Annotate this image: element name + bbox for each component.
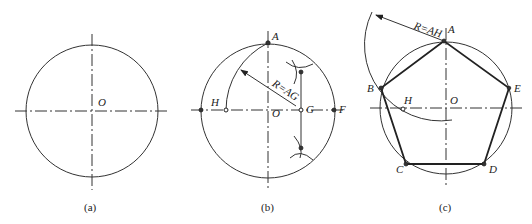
point-H-b (224, 108, 228, 112)
label-E-c: E (513, 82, 521, 94)
pentagon (381, 41, 509, 164)
caption-c: (c) (439, 201, 452, 214)
label-O-b: O (272, 107, 280, 119)
label-O-a: O (98, 96, 106, 108)
label-C-c: C (396, 163, 404, 175)
arc-AG (226, 43, 268, 110)
label-H-c: H (403, 94, 413, 106)
point-bisector-bottom (299, 146, 303, 150)
panel-b: A H O G F R=AG (b) (191, 30, 346, 214)
point-H-c (401, 107, 405, 111)
pentagon-construction-diagram: O (a) A H O G F R=AG (b) (0, 0, 532, 224)
label-B-c: B (367, 82, 374, 94)
point-G-b (299, 108, 303, 112)
label-A-b: A (271, 30, 279, 42)
point-left-b (199, 108, 203, 112)
label-A-c: A (447, 23, 455, 35)
point-A-b (266, 41, 270, 45)
panel-c: A B C D E H O R=AH (c) (365, 12, 522, 214)
point-C-c (404, 162, 408, 166)
point-D-c (482, 162, 486, 166)
label-H-b: H (210, 96, 220, 108)
bisector-arc-top-2 (292, 60, 297, 84)
bisector-arc-bottom-1 (290, 153, 313, 160)
label-G-b: G (306, 103, 314, 115)
point-A-c (442, 39, 446, 43)
label-D-c: D (488, 163, 497, 175)
label-O-c: O (450, 94, 458, 106)
panel-a: O (a) (15, 34, 168, 214)
point-F-b (332, 108, 336, 112)
point-E-c (507, 86, 511, 90)
caption-a: (a) (84, 201, 97, 214)
label-F-b: F (338, 103, 346, 115)
bisector-arc-top-1 (286, 62, 313, 68)
radius-note-c: R=AH (412, 19, 445, 40)
point-B-c (379, 86, 383, 90)
point-bisector-top (299, 70, 303, 74)
caption-b: (b) (261, 201, 274, 214)
